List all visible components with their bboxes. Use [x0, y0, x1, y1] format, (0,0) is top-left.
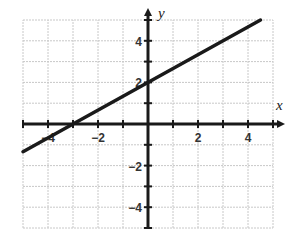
x-tick-label: −2 — [91, 131, 105, 145]
coordinate-plane: −4−22442−2−4 x y — [0, 0, 300, 241]
y-tick-label: −4 — [128, 201, 142, 215]
y-axis-label: y — [156, 5, 165, 21]
x-tick-label: 2 — [195, 131, 202, 145]
y-tick-label: 4 — [135, 35, 142, 49]
x-axis-label: x — [275, 97, 283, 113]
x-tick-label: 4 — [245, 131, 252, 145]
labels: x y — [156, 5, 283, 113]
x-axis-arrow-icon — [277, 120, 285, 128]
y-axis-arrow-icon — [144, 8, 152, 16]
y-tick-label: −2 — [128, 160, 142, 174]
